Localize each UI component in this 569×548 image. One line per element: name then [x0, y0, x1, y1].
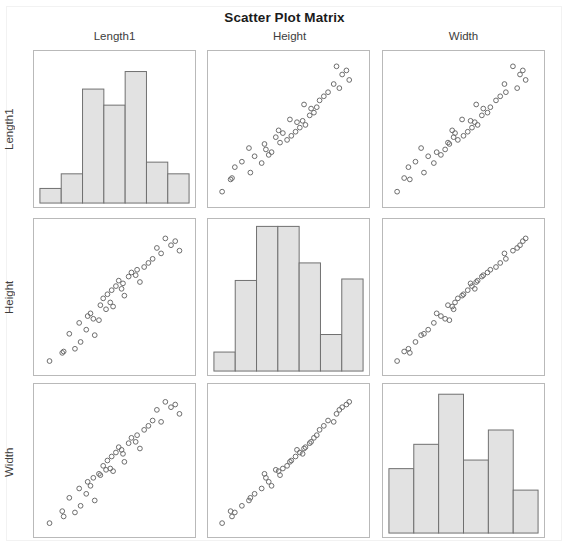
- histogram-bar: [61, 174, 82, 203]
- scatter-point: [317, 427, 322, 432]
- scatter-point: [114, 450, 119, 455]
- scatter-point: [88, 483, 93, 488]
- panel-width-length1[interactable]: [33, 383, 196, 538]
- scatter-point: [262, 142, 267, 147]
- scatter-point: [169, 243, 174, 248]
- scatter-point: [485, 110, 490, 115]
- histogram-bar: [513, 490, 538, 533]
- scatter-point: [273, 135, 278, 140]
- scatter-point: [247, 146, 252, 151]
- scatter-point: [481, 106, 486, 111]
- scatter-point: [84, 491, 89, 496]
- scatter-point: [426, 154, 431, 159]
- scatter-point: [295, 120, 300, 125]
- histogram-bar: [168, 174, 189, 203]
- scatter-point: [278, 140, 283, 145]
- panel-height-width[interactable]: [382, 218, 545, 376]
- panel-length1-length1[interactable]: [33, 50, 196, 208]
- scatter-point: [119, 286, 124, 291]
- scatter-point: [326, 90, 331, 95]
- histogram-bar: [342, 279, 363, 371]
- scatter-point: [97, 318, 102, 323]
- scatter-point: [92, 333, 97, 338]
- scatter-point: [450, 128, 455, 133]
- scatter-point: [252, 491, 257, 496]
- scatter-point: [269, 150, 274, 155]
- scatter-point: [334, 64, 339, 69]
- scatter-point: [337, 86, 342, 91]
- scatter-point: [61, 514, 66, 519]
- panel-length1-height[interactable]: [207, 50, 370, 208]
- scatter-point: [468, 118, 473, 123]
- panel-height-height[interactable]: [207, 218, 370, 376]
- histogram-bar: [389, 469, 414, 533]
- scatter-point: [523, 236, 528, 241]
- scatter-point: [163, 236, 168, 241]
- scatter-point: [413, 340, 418, 345]
- scatter-point: [138, 446, 143, 451]
- scatter-point: [347, 399, 352, 404]
- scatter-point: [479, 113, 484, 118]
- histogram-bar: [464, 460, 489, 533]
- scatter-point: [105, 458, 110, 463]
- scatter-plot-matrix-figure: Scatter Plot Matrix Length1 Height Width…: [0, 0, 569, 548]
- column-header-width: Width: [382, 30, 545, 42]
- histogram-bar: [125, 72, 146, 204]
- scatter-point: [109, 454, 114, 459]
- panel-height-length1[interactable]: [33, 218, 196, 376]
- histogram-bar: [83, 89, 104, 203]
- scatter-point: [288, 117, 293, 122]
- scatter-point: [142, 427, 147, 432]
- scatter-point: [150, 418, 155, 423]
- scatter-point: [520, 239, 525, 244]
- scatter-point: [347, 78, 352, 83]
- scatter-point: [73, 510, 78, 515]
- scatter-point: [101, 296, 106, 301]
- scatter-point: [300, 118, 305, 123]
- scatter-point: [293, 454, 298, 459]
- scatter-width-length1: [34, 384, 195, 537]
- scatter-point: [159, 419, 164, 424]
- scatter-point: [135, 433, 140, 438]
- scatter-point: [232, 510, 237, 515]
- scatter-point: [121, 281, 126, 286]
- histogram-bar: [146, 162, 167, 203]
- scatter-point: [314, 105, 319, 110]
- scatter-point: [302, 102, 307, 107]
- scatter-point: [173, 402, 178, 407]
- scatter-point: [142, 265, 147, 270]
- scatter-point: [344, 402, 349, 407]
- scatter-point: [402, 176, 407, 181]
- histogram-bar: [488, 430, 513, 533]
- histogram-bar: [278, 226, 299, 371]
- scatter-point: [293, 129, 298, 134]
- row-header-length1: Length1: [3, 50, 25, 208]
- scatter-point: [252, 154, 257, 159]
- scatter-point: [511, 64, 516, 69]
- scatter-point: [334, 411, 339, 416]
- scatter-point: [126, 441, 131, 446]
- panel-width-width[interactable]: [382, 383, 545, 538]
- histogram-bar: [414, 444, 439, 533]
- scatter-point: [248, 170, 253, 175]
- scatter-point: [504, 90, 509, 95]
- scatter-point: [150, 256, 155, 261]
- scatter-point: [104, 307, 109, 312]
- scatter-point: [138, 280, 143, 285]
- row-header-width: Width: [3, 383, 25, 541]
- scatter-point: [431, 161, 436, 166]
- scatter-point: [406, 165, 411, 170]
- scatter-point: [91, 475, 96, 480]
- scatter-point: [146, 261, 151, 266]
- histogram-bar: [299, 263, 320, 371]
- scatter-point: [259, 161, 264, 166]
- scatter-height-length1: [34, 219, 195, 375]
- scatter-point: [488, 105, 493, 110]
- scatter-point: [177, 248, 182, 253]
- scatter-point: [135, 267, 140, 272]
- histogram-bar: [257, 226, 278, 371]
- scatter-point: [122, 293, 127, 298]
- panel-length1-width[interactable]: [382, 50, 545, 208]
- panel-width-height[interactable]: [207, 383, 370, 538]
- scatter-point: [240, 159, 245, 164]
